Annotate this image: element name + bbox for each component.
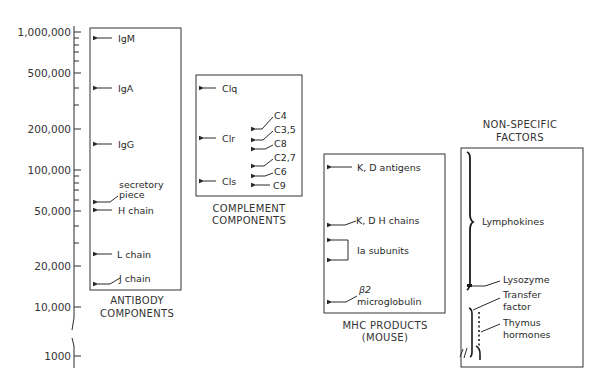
y-axis: 1,000,000 500,000 200,000 100,000 50,000… <box>18 26 81 368</box>
label-c9: C9 <box>273 180 286 191</box>
label-hormones: hormones <box>503 329 551 340</box>
header-nonspecific-2: FACTORS <box>496 132 544 143</box>
label-clr: Clr <box>222 133 235 144</box>
label-piece: piece <box>119 189 145 200</box>
transfer-factor-brace <box>469 308 472 357</box>
tick-label-1000000: 1,000,000 <box>18 26 71 38</box>
major-ticks <box>74 32 81 356</box>
tick-label-50000: 50,000 <box>34 205 71 217</box>
mhc-box <box>324 154 445 313</box>
label-h-chain: H chain <box>118 205 154 216</box>
label-c4: C4 <box>274 110 287 121</box>
mhc-products-group: K, D antigens K, D H chains Ia subunits … <box>324 154 445 343</box>
caption-complement-2: COMPONENTS <box>212 215 286 226</box>
lymphokines-brace <box>467 152 473 290</box>
label-j-chain: J chain <box>118 273 151 284</box>
tick-label-1000: 1000 <box>44 350 71 362</box>
label-kd-antigens: K, D antigens <box>357 162 421 173</box>
label-igg: IgG <box>118 139 134 150</box>
minor-ticks <box>74 38 79 243</box>
label-igm: IgM <box>118 33 135 44</box>
label-l-chain: L chain <box>117 249 151 260</box>
label-iga: IgA <box>118 83 134 94</box>
complement-box <box>196 75 302 196</box>
immune-molecule-weight-diagram: 1,000,000 500,000 200,000 100,000 50,000… <box>0 0 593 386</box>
caption-complement-1: COMPLEMENT <box>213 203 287 214</box>
label-thymus: Thymus <box>502 317 541 328</box>
caption-antibody-1: ANTIBODY <box>110 295 164 306</box>
label-ia-subunits: Ia subunits <box>357 245 409 256</box>
tick-label-10000: 10,000 <box>34 301 71 313</box>
label-c35: C3,5 <box>274 124 296 135</box>
label-lysozyme: Lysozyme <box>503 274 550 285</box>
tick-label-200000: 200,000 <box>28 123 71 135</box>
antibody-components-group: IgM IgA IgG secretory piece H chain L ch… <box>90 28 181 319</box>
label-lymphokines: Lymphokines <box>482 216 544 227</box>
label-c8: C8 <box>274 138 287 149</box>
caption-mhc-2: (MOUSE) <box>362 332 408 343</box>
label-cls: Cls <box>222 176 236 187</box>
header-nonspecific-1: NON-SPECIFIC <box>483 119 557 130</box>
caption-antibody-2: COMPONENTS <box>100 308 174 319</box>
label-clq: Clq <box>222 83 237 94</box>
label-microglobulin: microglobulin <box>357 296 421 307</box>
label-c27: C2,7 <box>274 152 296 163</box>
label-factor: factor <box>503 301 531 312</box>
caption-mhc-1: MHC PRODUCTS <box>342 320 427 331</box>
label-kd-h-chains: K, D H chains <box>356 215 419 226</box>
label-beta2: β2 <box>358 284 371 295</box>
label-c6: C6 <box>274 166 287 177</box>
tick-label-500000: 500,000 <box>28 67 71 79</box>
label-transfer: Transfer <box>502 289 541 300</box>
complement-components-group: Clq Clr Cls C4 C3,5 C8 C2,7 C6 C9 COMPLE… <box>196 75 302 226</box>
non-specific-factors-group: NON-SPECIFIC FACTORS Lymphokines Lysozym… <box>460 119 583 367</box>
tick-label-100000: 100,000 <box>28 164 71 176</box>
tick-label-20000: 20,000 <box>34 260 71 272</box>
